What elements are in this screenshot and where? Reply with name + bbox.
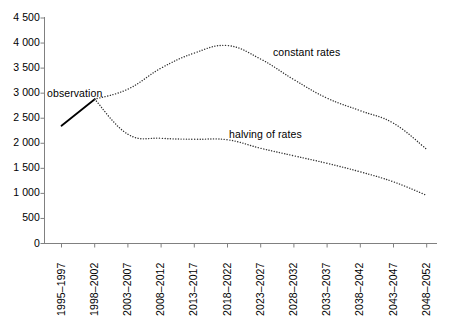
y-axis-tick-label: 2 000 (0, 137, 40, 148)
y-axis-tick-label: 0 (0, 238, 40, 249)
x-axis-tick-label: 2023–2027 (255, 250, 267, 316)
series-annotation-label: halving of rates (229, 129, 302, 140)
x-axis-ticks (62, 244, 427, 248)
x-axis-tick-label-text: 2033–2037 (321, 263, 332, 316)
x-axis-tick-label: 2003–2007 (122, 250, 134, 316)
y-axis-tick-label: 4 500 (0, 12, 40, 23)
x-axis-tick-label: 1995–1997 (56, 250, 68, 316)
x-axis-tick-label: 2043–2047 (388, 250, 400, 316)
x-axis-tick-label-text: 2023–2027 (255, 263, 266, 316)
series-annotation-label: observation (47, 88, 102, 99)
y-axis-tick-label-text: 4 000 (4, 37, 40, 48)
y-axis-tick-label: 3 000 (0, 87, 40, 98)
x-axis-tick-label: 2028–2032 (288, 250, 300, 316)
y-axis-tick-label: 3 500 (0, 62, 40, 73)
x-axis-tick-label-text: 2003–2007 (122, 263, 133, 316)
x-axis-tick-label: 2018–2022 (222, 250, 234, 316)
x-axis-tick-label-text: 2013–2017 (188, 263, 199, 316)
y-axis-tick-label-text: 2 000 (4, 137, 40, 148)
y-axis-tick-label-text: 3 500 (4, 62, 40, 73)
y-axis-tick-label-text: 0 (4, 238, 40, 249)
x-axis-tick-label: 2008–2012 (155, 250, 167, 316)
series-line-halving-of-rates (95, 99, 427, 195)
y-axis-tick-label: 4 000 (0, 37, 40, 48)
y-axis-tick-label-text: 4 500 (4, 12, 40, 23)
x-axis-tick-label-text: 1995–1997 (56, 263, 67, 316)
x-axis-tick-label-text: 2018–2022 (222, 263, 233, 316)
x-axis-group (44, 244, 437, 248)
x-axis-tick-label-text: 2008–2012 (155, 263, 166, 316)
x-axis-tick-label: 2033–2037 (321, 250, 333, 316)
y-axis-ticks (41, 18, 45, 244)
y-axis-tick-label: 1 000 (0, 187, 40, 198)
x-axis-tick-label-text: 2048–2052 (421, 263, 432, 316)
x-axis-tick-label: 2048–2052 (421, 250, 433, 316)
x-axis-tick-label-text: 2038–2042 (354, 263, 365, 316)
x-axis-tick-label: 2038–2042 (354, 250, 366, 316)
chart-container: 05001 0001 5002 0002 5003 0003 5004 0004… (0, 0, 450, 319)
y-axis-tick-label-text: 3 000 (4, 87, 40, 98)
data-series-group (62, 45, 427, 195)
y-axis-tick-label-text: 1 500 (4, 162, 40, 173)
x-axis-tick-label-text: 1998–2002 (89, 263, 100, 316)
series-line-observation (62, 99, 95, 126)
x-axis-tick-label-text: 2043–2047 (388, 263, 399, 316)
series-annotation-label: constant rates (273, 47, 340, 58)
x-axis-tick-label: 2013–2017 (188, 250, 200, 316)
x-axis-tick-label-text: 2028–2032 (288, 263, 299, 316)
y-axis-tick-label-text: 2 500 (4, 112, 40, 123)
x-axis-tick-label: 1998–2002 (89, 250, 101, 316)
y-axis-tick-label: 500 (0, 212, 40, 223)
y-axis-tick-label-text: 1 000 (4, 187, 40, 198)
y-axis-group (41, 17, 45, 244)
y-axis-tick-label: 1 500 (0, 162, 40, 173)
y-axis-tick-label-text: 500 (4, 212, 40, 223)
y-axis-tick-label: 2 500 (0, 112, 40, 123)
